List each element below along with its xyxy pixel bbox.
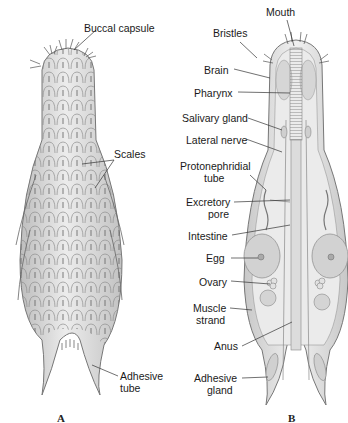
label-protonephridial-line1: Protonephridial	[180, 160, 251, 172]
panel-a-illustration	[0, 0, 174, 423]
label-adhesive-tube-line1: Adhesive	[120, 370, 163, 382]
label-brain: Brain	[204, 64, 229, 76]
label-pharynx: Pharynx	[194, 87, 233, 99]
label-muscle-line2: strand	[196, 314, 225, 326]
label-excretory-line1: Excretory	[186, 196, 230, 208]
label-adhesive-gland-line2: gland	[207, 384, 233, 396]
label-buccal-capsule: Buccal capsule	[84, 22, 155, 34]
panel-b-illustration	[174, 0, 348, 423]
label-adhesive-gland-line1: Adhesive	[194, 372, 237, 384]
panel-letter-b: B	[288, 412, 295, 423]
label-protonephridial-line2: tube	[204, 172, 224, 184]
label-salivary-gland: Salivary gland	[182, 112, 248, 124]
label-muscle-line1: Muscle	[193, 302, 226, 314]
label-intestine: Intestine	[188, 230, 228, 242]
gastrotrich-figure: Buccal capsule Scales Adhesive tube A Mo…	[0, 0, 348, 423]
label-ovary: Ovary	[199, 276, 227, 288]
label-lateral-nerve: Lateral nerve	[186, 134, 247, 146]
label-scales: Scales	[114, 148, 146, 160]
label-excretory-line2: pore	[208, 208, 229, 220]
label-egg: Egg	[206, 252, 225, 264]
label-bristles: Bristles	[213, 27, 247, 39]
panel-letter-a: A	[57, 412, 65, 423]
label-anus: Anus	[214, 340, 238, 352]
label-mouth: Mouth	[266, 6, 295, 18]
label-adhesive-tube-line2: tube	[120, 382, 140, 394]
